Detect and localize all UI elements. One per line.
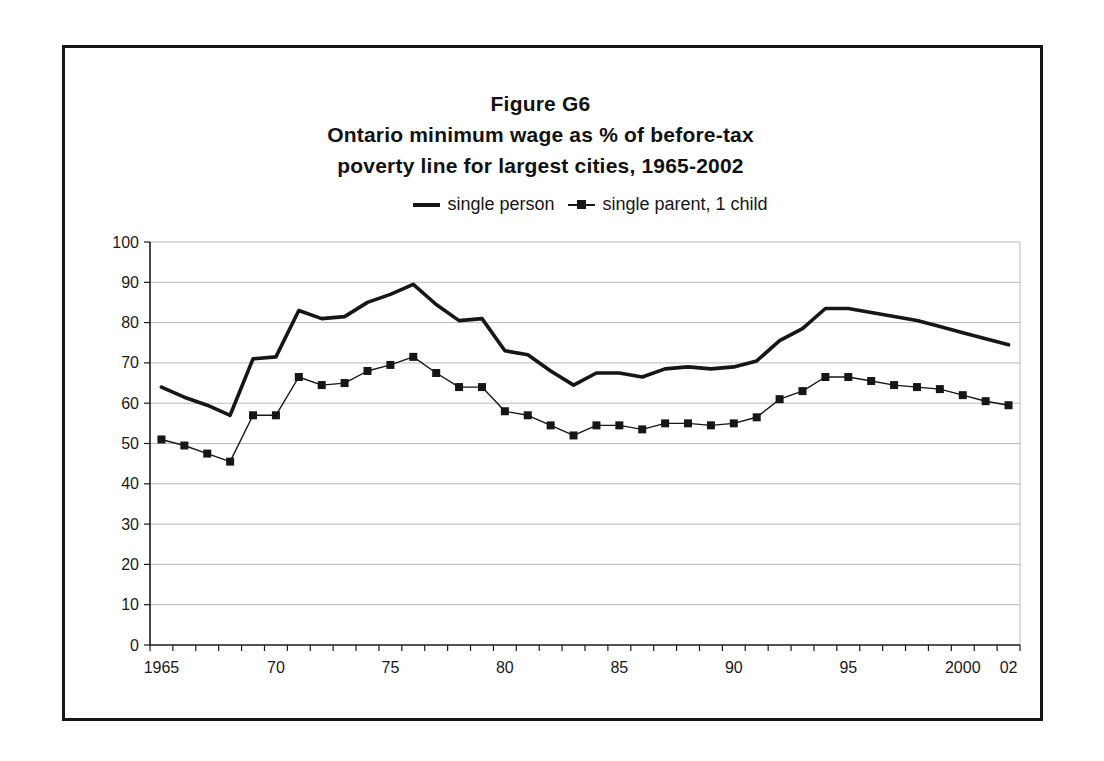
scanned-page: Figure G6 Ontario minimum wage as % of b… [0,0,1104,761]
square-data-marker [890,381,898,389]
square-data-marker [821,373,829,381]
y-axis-tick-label: 90 [121,274,139,291]
square-data-marker [959,391,967,399]
y-axis-tick-label: 80 [121,314,139,331]
x-axis-tick-label: 95 [839,659,857,676]
series-line-single-person [161,284,1008,415]
square-data-marker [341,379,349,387]
square-data-marker [432,369,440,377]
y-axis-tick-label: 10 [121,596,139,613]
square-data-marker [913,383,921,391]
x-axis-tick-label: 80 [496,659,514,676]
square-data-marker [844,373,852,381]
chart-frame: Figure G6 Ontario minimum wage as % of b… [62,45,1043,721]
square-data-marker [661,419,669,427]
y-axis-tick-label: 0 [130,637,139,654]
square-data-marker [386,361,394,369]
square-data-marker [203,450,211,458]
x-axis-tick-label: 85 [610,659,628,676]
y-axis-tick-label: 60 [121,395,139,412]
y-axis-tick-label: 30 [121,516,139,533]
square-data-marker [1005,401,1013,409]
square-data-marker [295,373,303,381]
square-data-marker [707,421,715,429]
square-data-marker [180,442,188,450]
square-data-marker [249,411,257,419]
square-data-marker [364,367,372,375]
y-axis-tick-label: 100 [112,234,139,251]
square-data-marker [157,435,165,443]
x-axis-tick-label: 02 [1000,659,1018,676]
square-data-marker [592,421,600,429]
square-data-marker [478,383,486,391]
y-axis-tick-label: 20 [121,556,139,573]
square-data-marker [638,425,646,433]
square-data-marker [867,377,875,385]
square-data-marker [730,419,738,427]
square-data-marker [799,387,807,395]
square-data-marker [524,411,532,419]
y-axis-tick-label: 70 [121,354,139,371]
square-data-marker [615,421,623,429]
square-data-marker [272,411,280,419]
square-data-marker [318,381,326,389]
square-data-marker [409,353,417,361]
x-axis-tick-label: 2000 [945,659,981,676]
square-data-marker [570,431,578,439]
series-line-single-parent [161,357,1008,462]
square-data-marker [776,395,784,403]
square-data-marker [547,421,555,429]
square-data-marker [455,383,463,391]
square-data-marker [982,397,990,405]
y-axis-tick-label: 40 [121,475,139,492]
x-axis-tick-label: 70 [267,659,285,676]
x-axis-tick-label: 75 [381,659,399,676]
square-data-marker [684,419,692,427]
square-data-marker [753,413,761,421]
y-axis-tick-label: 50 [121,435,139,452]
x-axis-tick-label: 1965 [144,659,180,676]
square-data-marker [501,407,509,415]
square-data-marker [936,385,944,393]
square-data-marker [226,458,234,466]
x-axis-tick-label: 90 [725,659,743,676]
line-chart-plot: 0102030405060708090100196570758085909520… [65,48,1040,718]
